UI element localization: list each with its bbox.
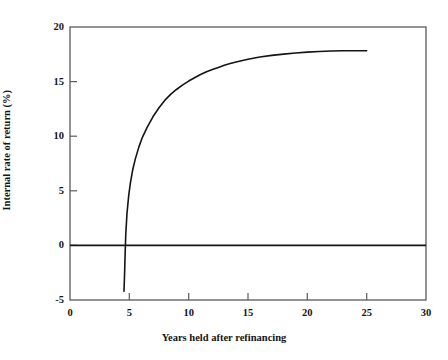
xtick-label-30: 30	[412, 308, 440, 319]
ytick-label-0: 0	[40, 240, 64, 251]
xtick-label-15: 15	[234, 308, 262, 319]
ytick-label-10: 10	[40, 131, 64, 142]
irr-curve	[124, 51, 367, 292]
plot-frame	[70, 27, 426, 300]
xtick-label-20: 20	[293, 308, 321, 319]
xtick-label-5: 5	[115, 308, 143, 319]
ytick-label-minus5: -5	[38, 295, 64, 306]
x-axis-ticks	[129, 293, 366, 300]
x-axis-title: Years held after refinancing	[0, 333, 448, 344]
y-axis-ticks	[70, 82, 77, 246]
y-axis-title-wrap: Internal rate of return (%)	[0, 0, 14, 300]
xtick-label-10: 10	[175, 308, 203, 319]
y-axis-title: Internal rate of return (%)	[2, 90, 13, 211]
chart-plot-svg	[0, 0, 448, 360]
xtick-label-0: 0	[56, 308, 84, 319]
ytick-label-5: 5	[40, 186, 64, 197]
chart-figure: 20 15 10 5 0 -5 0 5 10 15 20 25 30 Years…	[0, 0, 448, 360]
xtick-label-25: 25	[353, 308, 381, 319]
ytick-label-20: 20	[40, 22, 64, 33]
ytick-label-15: 15	[40, 77, 64, 88]
